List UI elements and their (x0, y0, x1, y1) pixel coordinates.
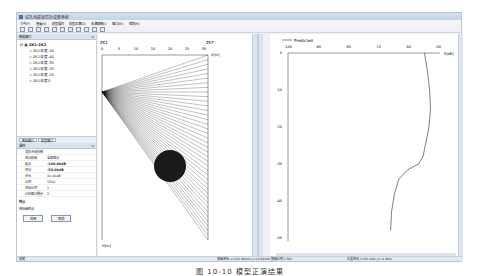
vertical-scrollbar-right[interactable] (458, 34, 463, 258)
y-axis-label: H[m] (102, 244, 111, 248)
menu-window[interactable]: 窗口(W) (112, 21, 124, 26)
svg-text:30: 30 (202, 47, 206, 51)
left-pane: 数据窗口 × ⊟ ▣ ZK1-ZK2 ◇ ZK1深度-50 ◇ ZK1深度-40… (17, 34, 97, 258)
app-icon (19, 15, 23, 19)
menu-help[interactable]: 帮助(H) (129, 21, 140, 26)
status-bar: 就绪 屏幕坐标 x=222.40mm,y=12.92mm 屏幕比例1:502 位… (17, 256, 463, 261)
tree-panel-title: 数据窗口 (19, 34, 31, 39)
tree-view: ⊟ ▣ ZK1-ZK2 ◇ ZK1深度-50 ◇ ZK1深度-40 ◇ ZK1深… (17, 40, 96, 136)
save-icon[interactable] (36, 27, 41, 32)
svg-text:15: 15 (151, 47, 155, 51)
window-title: 钻孔电磁波层析成像系统 (25, 14, 69, 20)
svg-text:-80: -80 (345, 45, 351, 49)
zoom-out-icon[interactable] (52, 27, 57, 32)
property-grid: 发射天线参数 显示模板全部显示 起点-100.00dB 终点-50.00dB 步… (17, 149, 96, 226)
svg-text:-100: -100 (284, 45, 292, 49)
predicted-line (391, 53, 431, 231)
close-icon[interactable]: × (91, 144, 94, 148)
figure-caption: 图 10-10 模型正演结果 (0, 266, 480, 276)
curve-view[interactable]: Predicted -100-90-80-70-60-50 E[dB] 0-10… (270, 34, 463, 258)
pan-icon[interactable] (84, 27, 89, 32)
apply-button[interactable]: 应用 (23, 215, 43, 222)
svg-text:-20: -20 (276, 125, 282, 129)
svg-text:-60: -60 (405, 45, 411, 49)
ray-paths (102, 55, 208, 240)
vertical-scrollbar[interactable] (252, 34, 257, 258)
svg-text:20: 20 (168, 47, 172, 51)
model-view[interactable]: ZK1 ZK7 051015202530 X[m] 0-10-20-30-40-… (98, 34, 258, 258)
ray-tomography-plot: ZK1 ZK7 051015202530 X[m] 0-10-20-30-40-… (98, 34, 258, 258)
svg-text:-10: -10 (276, 88, 282, 92)
svg-text:-90: -90 (315, 45, 321, 49)
menu-view[interactable]: 查看(V) (36, 21, 47, 26)
status-ready: 就绪 (19, 257, 25, 261)
menu-model[interactable]: 模型操作 (52, 21, 64, 26)
close-icon[interactable]: × (91, 35, 94, 39)
predicted-curve-chart: Predicted -100-90-80-70-60-50 E[dB] 0-10… (270, 34, 463, 258)
svg-text:10: 10 (134, 47, 138, 51)
left-well-label: ZK1 (100, 40, 108, 45)
zoom-in-icon[interactable] (44, 27, 49, 32)
fit-icon[interactable] (60, 27, 65, 32)
tab-data[interactable]: 数据窗口 (19, 138, 37, 142)
x-axis-label: E[dB] (444, 52, 454, 56)
svg-text:-40: -40 (276, 199, 282, 203)
toolbar (17, 26, 461, 33)
app-window: 钻孔电磁波层析成像系统 文件(F) 查看(V) 模型操作 模型正演(D) 反演解… (16, 12, 462, 262)
svg-text:-30: -30 (276, 162, 282, 166)
right-well-label: ZK7 (206, 40, 214, 45)
status-model-coords: 位置坐标 x=61.24m,y=-4.40m (347, 257, 392, 261)
tree-item[interactable]: ◇ ZK1深度0 (20, 78, 93, 84)
properties-title: 属性 (19, 143, 25, 148)
title-bar: 钻孔电磁波层析成像系统 (17, 13, 461, 20)
cut-icon[interactable] (68, 27, 73, 32)
anomaly-circle (154, 150, 186, 182)
svg-text:0: 0 (280, 51, 282, 55)
open-icon[interactable] (28, 27, 33, 32)
tab-model[interactable]: 模型窗口 (38, 138, 56, 142)
description-title: 终点 (17, 197, 96, 206)
x-axis-label: X[m] (211, 53, 220, 57)
svg-text:25: 25 (185, 47, 189, 51)
settings-icon[interactable] (100, 27, 105, 32)
legend-predicted: Predicted (294, 38, 313, 43)
select-icon[interactable] (92, 27, 97, 32)
svg-text:-50: -50 (276, 236, 282, 240)
new-icon[interactable] (20, 27, 25, 32)
menu-forward[interactable]: 模型正演(D) (69, 21, 86, 26)
menu-inversion[interactable]: 反演解释(I) (91, 21, 107, 26)
svg-text:-70: -70 (375, 45, 381, 49)
status-coords: 屏幕坐标 x=222.40mm,y=12.92mm 屏幕比例1:502 (217, 257, 292, 261)
svg-text:-50: -50 (435, 45, 441, 49)
pane-tabs: 数据窗口 模型窗口 (17, 136, 96, 143)
menu-file[interactable]: 文件(F) (20, 21, 31, 26)
svg-text:5: 5 (118, 47, 120, 51)
vertical-scrollbar[interactable] (258, 34, 263, 258)
cancel-button[interactable]: 取消 (51, 215, 71, 222)
refresh-icon[interactable] (76, 27, 81, 32)
svg-text:0: 0 (101, 47, 103, 51)
